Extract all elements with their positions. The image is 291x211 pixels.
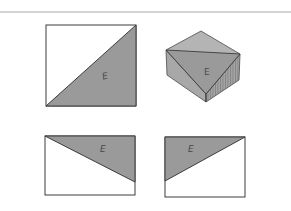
label-e: E (188, 144, 194, 154)
bottom-left-rect-figure: E (45, 136, 135, 195)
label-e: E (100, 144, 106, 154)
bottom-right-rect-figure: E (165, 137, 245, 197)
diagram-canvas: E E E E (0, 0, 291, 211)
label-e: E (204, 67, 210, 77)
top-left-square-figure: E (46, 25, 136, 106)
isometric-block-figure: E (166, 31, 240, 102)
